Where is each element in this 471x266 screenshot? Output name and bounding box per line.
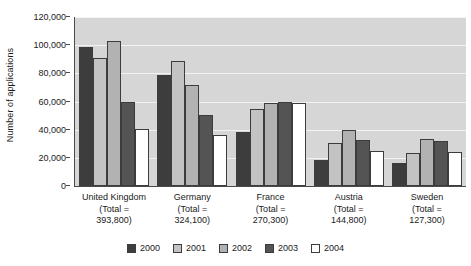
legend-swatch-icon — [265, 244, 274, 253]
legend-label: 2002 — [232, 243, 252, 253]
legend-item-2002[interactable]: 2002 — [219, 243, 252, 253]
y-axis-tick-labels: 120,000100,00080,00060,00040,00020,0000 — [18, 11, 70, 191]
bar-united-kingdom-2003 — [121, 102, 135, 186]
x-axis-category-label-line: 127,300) — [388, 215, 466, 227]
bar-austria-2001 — [328, 143, 342, 186]
x-axis-category-label-line: Austria — [310, 192, 388, 204]
bar-austria-2004 — [370, 151, 384, 186]
y-axis-tick-label: 120,000 — [33, 12, 66, 22]
legend-item-2000[interactable]: 2000 — [127, 243, 160, 253]
legend: 20002001200220032004 — [0, 243, 471, 253]
legend-swatch-icon — [219, 244, 228, 253]
y-axis-title-text: Number of applications — [5, 48, 15, 142]
legend-item-2001[interactable]: 2001 — [173, 243, 206, 253]
x-axis-category-label-line: (Total = — [153, 204, 231, 216]
x-axis-category-label-line: (Total = — [310, 204, 388, 216]
bar-germany-2000 — [157, 75, 171, 186]
x-axis-category-label-line: 393,800) — [75, 215, 153, 227]
bar-united-kingdom-2004 — [135, 129, 149, 186]
legend-item-2004[interactable]: 2004 — [311, 243, 344, 253]
legend-item-2003[interactable]: 2003 — [265, 243, 298, 253]
x-axis-category-label-line: 270,300) — [231, 215, 309, 227]
x-axis-category-label: Austria(Total =144,800) — [310, 192, 388, 238]
bar-germany-2002 — [185, 85, 199, 186]
bar-germany-2004 — [213, 135, 227, 186]
x-axis-category-label-line: United Kingdom — [75, 192, 153, 204]
y-axis-tick-mark — [66, 44, 70, 45]
y-axis-title: Number of applications — [2, 0, 18, 190]
y-axis-tick-mark — [66, 101, 70, 102]
bar-sweden-2000 — [392, 163, 406, 186]
x-axis-category-label-line: 144,800) — [310, 215, 388, 227]
bar-united-kingdom-2002 — [107, 41, 121, 186]
bar-france-2001 — [250, 109, 264, 186]
x-axis-category-label-line: France — [231, 192, 309, 204]
x-axis-category-label: France(Total =270,300) — [231, 192, 309, 238]
bar-group — [75, 17, 153, 186]
y-axis-tick-mark — [66, 185, 70, 186]
bar-france-2002 — [264, 103, 278, 186]
x-axis-category-label: Germany(Total =324,100) — [153, 192, 231, 238]
bar-united-kingdom-2000 — [79, 47, 93, 186]
bar-group — [388, 17, 466, 186]
bar-chart-figure: Number of applications 120,000100,00080,… — [0, 0, 471, 266]
bar-france-2000 — [236, 132, 250, 187]
x-axis-category-label-line: Germany — [153, 192, 231, 204]
bar-austria-2000 — [314, 160, 328, 186]
y-axis-tick-label: 80,000 — [38, 68, 66, 78]
bar-group — [310, 17, 388, 186]
bar-united-kingdom-2001 — [93, 58, 107, 186]
legend-label: 2000 — [140, 243, 160, 253]
bar-group — [153, 17, 231, 186]
legend-swatch-icon — [311, 244, 320, 253]
y-axis-tick-label: 40,000 — [38, 125, 66, 135]
x-axis-category-label-line: Sweden — [388, 192, 466, 204]
bar-austria-2003 — [356, 140, 370, 186]
plot-area — [74, 17, 466, 187]
legend-swatch-icon — [127, 244, 136, 253]
y-axis-tick-mark — [66, 157, 70, 158]
bar-sweden-2001 — [406, 153, 420, 186]
bar-germany-2001 — [171, 61, 185, 186]
y-axis-tick-label: 0 — [61, 181, 66, 191]
bar-sweden-2003 — [434, 141, 448, 186]
legend-label: 2004 — [324, 243, 344, 253]
y-axis-tick-label: 20,000 — [38, 153, 66, 163]
legend-swatch-icon — [173, 244, 182, 253]
y-axis-tick-mark — [66, 16, 70, 17]
bar-france-2003 — [278, 102, 292, 186]
y-axis-tick-label: 60,000 — [38, 97, 66, 107]
bar-groups — [75, 17, 466, 186]
x-axis-category-label: United Kingdom(Total =393,800) — [75, 192, 153, 238]
legend-label: 2003 — [278, 243, 298, 253]
bar-group — [231, 17, 309, 186]
x-axis-category-label: Sweden(Total =127,300) — [388, 192, 466, 238]
bar-sweden-2002 — [420, 139, 434, 186]
y-axis-tick-mark — [66, 129, 70, 130]
x-axis-category-label-line: (Total = — [231, 204, 309, 216]
bar-austria-2002 — [342, 130, 356, 186]
x-axis-category-label-line: (Total = — [75, 204, 153, 216]
bar-france-2004 — [292, 103, 306, 186]
x-axis-category-label-line: 324,100) — [153, 215, 231, 227]
x-axis-category-label-line: (Total = — [388, 204, 466, 216]
y-axis-tick-mark — [66, 72, 70, 73]
bar-germany-2003 — [199, 115, 213, 186]
bar-sweden-2004 — [448, 152, 462, 186]
y-axis-tick-label: 100,000 — [33, 40, 66, 50]
legend-label: 2001 — [186, 243, 206, 253]
x-axis-tick-labels: United Kingdom(Total =393,800)Germany(To… — [75, 192, 466, 238]
